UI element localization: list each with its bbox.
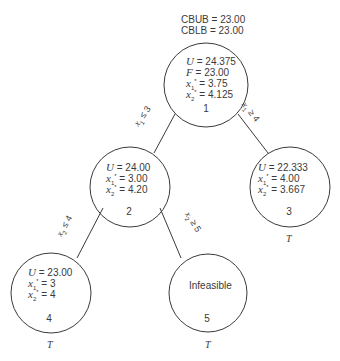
node-2-number: 2 (119, 206, 139, 217)
node-4-number: 4 (39, 313, 59, 324)
node-2-values: U = 24.00 x1* = 3.00 x2* = 4.20 (106, 162, 150, 195)
edge-1-2 (154, 114, 175, 153)
node-5-terminal-mark: T (205, 339, 211, 350)
cbub-label: CBUB = 23.00 (181, 14, 245, 25)
cblb-label: CBLB = 23.00 (181, 25, 244, 36)
node-1-values: U = 24.375 F = 23.00 x1* = 3.75 x2* = 4.… (186, 56, 236, 100)
node-3-values: U = 22.333 x1* = 4.00 x2* = 3.667 (258, 162, 308, 195)
edge-2-5 (160, 208, 181, 258)
node-4-values: U = 23.00 x1* = 3 x2* = 4 (28, 267, 72, 300)
node-5-number: 5 (197, 313, 217, 324)
node-1-number: 1 (196, 103, 216, 114)
node-3-terminal-mark: T (286, 233, 292, 244)
node-3-number: 3 (279, 206, 299, 217)
node-5-infeasible-label: Infeasible (189, 280, 232, 291)
node-4-terminal-mark: T (47, 339, 53, 350)
edge-2-4 (77, 208, 103, 258)
